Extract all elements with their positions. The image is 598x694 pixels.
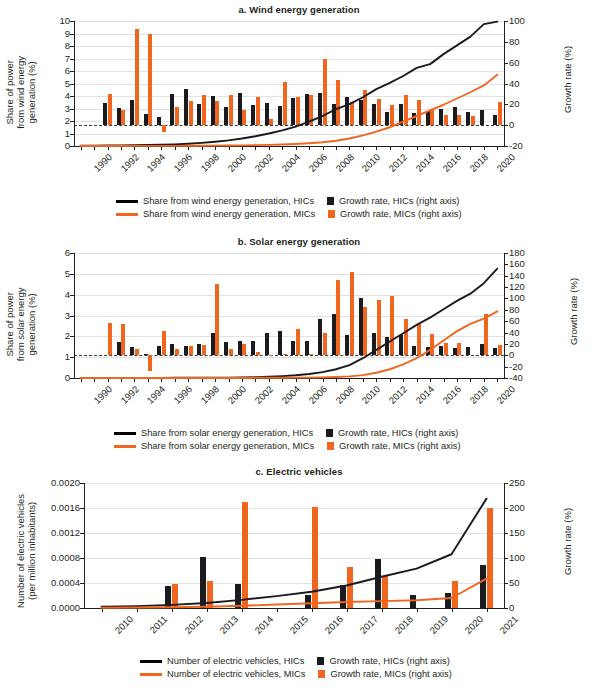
y-axis-tick-label: 2 [65,116,70,126]
y-right-axis-tick-label: 20 [509,100,520,110]
y-axis-tick-label: 6 [65,66,70,76]
panel-b-legend-item-line-mic[interactable]: Share from solar energy generation, MICs [114,441,314,451]
panel-c-ylabel: Number of electric vehicles(per million … [16,476,38,626]
panel-c-canvas: 0.00000.00040.00080.00120.00160.00200501… [84,483,504,608]
right-axis-line [504,21,505,146]
x-axis-tick-label: 2000 [226,152,248,174]
panel-a-legend-item-line-mic[interactable]: Share from wind energy generation, MICs [116,209,315,219]
x-axis-tick-label: 2021 [498,614,520,636]
panel-b-legend-row: Share from solar energy generation, HICs… [114,428,458,438]
panel-c-legend-item-bar-mic[interactable]: Growth rate, MICs (right axis) [305,669,451,679]
panel-c-legend-item-line-hic[interactable]: Number of electric vehicles, HICs [140,656,304,666]
x-tick-mark [323,378,324,382]
y-axis-tick-label: 0.0004 [51,578,80,588]
x-axis-tick-label: 2012 [388,384,410,406]
legend-label: Share from solar energy generation, MICs [141,441,314,451]
x-axis-tick-label: 1990 [92,384,114,406]
y-right-axis-tick-label: 180 [509,248,525,258]
x-axis-tick-label: 2017 [358,614,380,636]
x-tick-mark [137,608,138,612]
y-right-axis-tick-label: 60 [509,316,520,326]
x-axis-tick-label: 1994 [146,384,168,406]
legend-line-swatch-icon [114,445,136,448]
legend-line-swatch-icon [140,660,162,663]
x-axis-tick-label: 2020 [463,614,485,636]
legend-label: Growth rate, MICs (right axis) [339,441,460,451]
x-tick-mark [470,378,471,382]
x-axis-tick-label: 2000 [226,384,248,406]
panel-b-legend-item-bar-mic[interactable]: Growth rate, MICs (right axis) [314,441,460,451]
panel-c-legend: Number of electric vehicles, HICsGrowth … [0,656,598,684]
panel-c-title: c. Electric vehicles [0,466,598,477]
panel-electric-vehicles: c. Electric vehicles Number of electric … [0,466,598,652]
x-tick-mark [403,146,404,150]
y-right-axis-tick-label: -20 [509,141,523,151]
x-tick-mark [309,378,310,382]
panel-b-legend-item-line-hic[interactable]: Share from solar energy generation, HICs [114,428,313,438]
legend-square-swatch-icon [326,429,333,437]
x-axis-tick-label: 1992 [119,384,141,406]
x-axis-tick-label: 2012 [183,614,205,636]
panel-a-legend-item-line-hic[interactable]: Share from wind energy generation, HICs [116,196,314,206]
x-axis-tick-label: 2018 [468,152,490,174]
x-tick-mark [376,146,377,150]
y-axis-tick-label: 0 [65,373,70,383]
x-axis-tick-label: 2011 [147,614,168,635]
legend-square-swatch-icon [327,197,334,205]
y-right-axis-tick-label: 200 [509,503,525,513]
legend-label: Share from wind energy generation, HICs [143,196,314,206]
panel-c-plot-area: 0.00000.00040.00080.00120.00160.00200501… [84,483,504,608]
x-axis-tick-label: 2014 [253,614,275,636]
x-axis-tick-label: 2020 [495,384,517,406]
x-tick-mark [430,146,431,150]
x-tick-mark [457,378,458,382]
x-axis-tick-label: 2004 [280,152,302,174]
x-axis-tick-label: 2016 [441,384,463,406]
panel-a-legend-item-bar-mic[interactable]: Growth rate, MICs (right axis) [315,209,461,219]
legend-label: Growth rate, HICs (right axis) [339,196,459,206]
panel-c-legend-item-line-mic[interactable]: Number of electric vehicles, MICs [140,669,305,679]
x-tick-mark [444,378,445,382]
x-axis-tick-label: 2002 [253,384,275,406]
y-right-axis-tick-label: 80 [509,305,520,315]
x-axis-tick-label: 2006 [307,384,329,406]
y-axis-tick-label: 0.0020 [51,478,80,488]
x-axis-tick-label: 2014 [414,384,436,406]
y-axis-tick-label: 2 [65,332,70,342]
panel-c-legend-item-bar-hic[interactable]: Growth rate, HICs (right axis) [304,656,449,666]
x-axis-tick-label: 2008 [334,384,356,406]
y-right-axis-tick-label: 50 [509,578,520,588]
x-tick-mark [484,146,485,150]
share-line-mic [81,311,498,378]
x-tick-mark [255,146,256,150]
x-axis-tick-label: 1998 [199,152,221,174]
y-right-axis-tick-label: 60 [509,58,520,68]
legend-line-swatch-icon [114,432,136,435]
panel-a-legend-item-bar-hic[interactable]: Growth rate, HICs (right axis) [314,196,459,206]
y-axis-tick-label: 1 [65,352,70,362]
legend-square-swatch-icon [328,210,335,218]
x-tick-mark [349,146,350,150]
legend-label: Growth rate, HICs (right axis) [329,656,449,666]
panel-b-legend-row: Share from solar energy generation, MICs… [114,441,461,451]
x-tick-mark [430,378,431,382]
x-tick-mark [229,146,230,150]
x-tick-mark [444,146,445,150]
x-tick-mark [242,146,243,150]
panel-b-legend: Share from solar energy generation, HICs… [0,428,598,456]
y-right-axis-tick-label: 40 [509,328,520,338]
panel-a-ylabel: Share of powerfrom wind energygeneration… [5,37,38,147]
x-axis-tick-label: 2018 [393,614,415,636]
y-axis-tick-label: 7 [65,54,70,64]
x-axis-tick-label: 2015 [288,614,310,636]
panel-b-legend-item-bar-hic[interactable]: Growth rate, HICs (right axis) [313,428,458,438]
x-tick-mark [242,608,243,612]
panel-solar-energy: b. Solar energy generation Share of powe… [0,236,598,422]
share-line-hic [81,22,498,146]
legend-label: Growth rate, MICs (right axis) [340,209,461,219]
y-axis-tick-label: 1 [65,129,70,139]
panel-b-canvas: 0123456-40-20020406080100120140160180199… [74,253,504,378]
y-right-axis-tick-label: -40 [509,373,523,383]
x-axis-tick-label: 1994 [146,152,168,174]
legend-label: Number of electric vehicles, HICs [167,656,304,666]
